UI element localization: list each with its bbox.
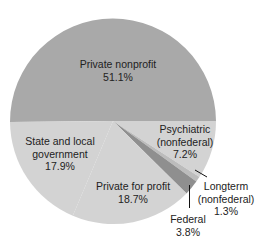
label-private-for-profit: Private for profit 18.7%	[88, 180, 178, 205]
label-psychiatric: Psychiatric (nonfederal) 7.2%	[153, 123, 217, 161]
label-state-local: State and local government 17.9%	[18, 135, 102, 173]
label-longterm: Longterm (nonfederal) 1.3%	[195, 180, 257, 218]
label-private-nonprofit: Private nonprofit 51.1%	[68, 58, 168, 83]
label-federal: Federal 3.8%	[166, 213, 210, 238]
